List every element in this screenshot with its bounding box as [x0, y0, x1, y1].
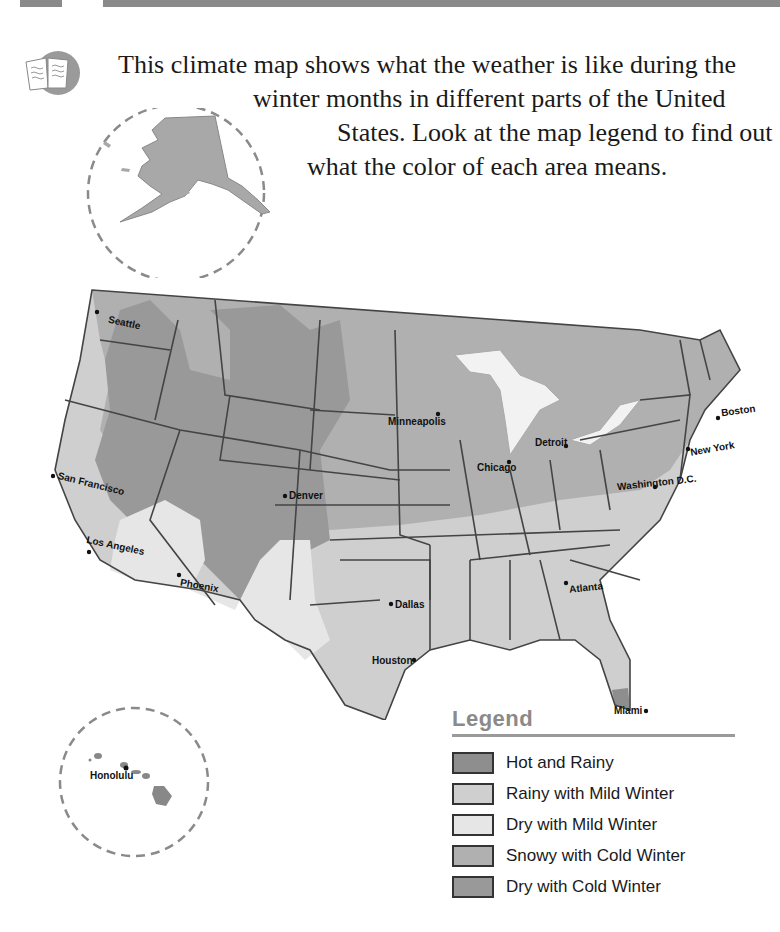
legend-divider [452, 734, 735, 737]
alaska-shape [120, 116, 270, 222]
alaska-inset [80, 108, 270, 278]
legend-label: Snowy with Cold Winter [506, 846, 686, 866]
legend-swatch [452, 814, 494, 836]
us-climate-map [0, 280, 780, 720]
legend-label: Hot and Rainy [506, 753, 614, 773]
header-bar-left [20, 0, 62, 7]
city-label-houston: Houston [372, 655, 413, 666]
legend-label: Dry with Cold Winter [506, 877, 661, 897]
legend-swatch [452, 845, 494, 867]
hawaii-inset [54, 704, 214, 862]
header-bar-right [103, 0, 780, 7]
legend-label: Dry with Mild Winter [506, 815, 657, 835]
city-label-dallas: Dallas [395, 599, 424, 610]
legend-label: Rainy with Mild Winter [506, 784, 674, 804]
open-book-icon [22, 50, 80, 96]
intro-text-line-4: what the color of each area means. [307, 150, 667, 184]
legend-swatch [452, 876, 494, 898]
legend-item-hot-rainy: Hot and Rainy [452, 747, 737, 778]
city-label-minneapolis: Minneapolis [388, 416, 446, 427]
legend-item-snowy-cold: Snowy with Cold Winter [452, 840, 737, 871]
city-label-denver: Denver [289, 490, 323, 501]
legend-item-rainy-mild: Rainy with Mild Winter [452, 778, 737, 809]
city-label-detroit: Detroit [535, 437, 567, 448]
intro-text-line-2: winter months in different parts of the … [253, 82, 725, 116]
intro-text-line-3: States. Look at the map legend to find o… [337, 116, 772, 150]
legend-title: Legend [452, 706, 737, 732]
legend-item-dry-mild: Dry with Mild Winter [452, 809, 737, 840]
legend-swatch [452, 752, 494, 774]
legend-item-dry-cold: Dry with Cold Winter [452, 871, 737, 902]
city-label-chicago: Chicago [477, 462, 516, 473]
city-label-honolulu: Honolulu [90, 770, 133, 781]
intro-text-line-1: This climate map shows what the weather … [118, 48, 736, 82]
legend-swatch [452, 783, 494, 805]
map-legend: Legend Hot and Rainy Rainy with Mild Win… [452, 706, 737, 902]
